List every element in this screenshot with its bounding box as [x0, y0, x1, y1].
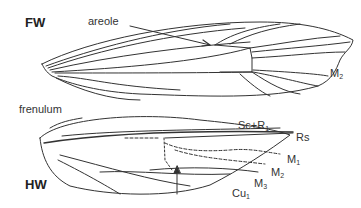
m2-forewing-label: M2 — [330, 68, 343, 80]
m3-subscript: 3 — [263, 183, 267, 190]
m1-text: M — [287, 153, 296, 165]
m1-subscript: 1 — [296, 159, 300, 166]
m2-subscript: 2 — [339, 73, 343, 80]
sc-r1-label: Sc+R1 — [238, 120, 269, 132]
m2-hindwing-label: M2 — [271, 167, 284, 179]
cu1-subscript: 1 — [246, 193, 250, 200]
rs-label: Rs — [296, 132, 309, 143]
m1-label: M1 — [287, 154, 300, 166]
cu1-label: Cu1 — [232, 188, 250, 200]
areole-label: areole — [88, 16, 119, 27]
m3-text: M — [254, 177, 263, 189]
sc-r1-subscript: 1 — [265, 125, 269, 132]
m2h-subscript: 2 — [280, 172, 284, 179]
frenulum-label: frenulum — [19, 104, 62, 115]
sc-r1-text: Sc+R — [238, 119, 265, 131]
forewing-label: FW — [25, 16, 45, 29]
m3-label: M3 — [254, 178, 267, 190]
m2h-text: M — [271, 166, 280, 178]
hindwing-label: HW — [25, 178, 47, 191]
cu1-text: Cu — [232, 187, 246, 199]
wing-venation-diagram: FW areole M2 frenulum HW Sc+R1 Rs M1 M2 … — [0, 0, 361, 208]
m2-text: M — [330, 67, 339, 79]
